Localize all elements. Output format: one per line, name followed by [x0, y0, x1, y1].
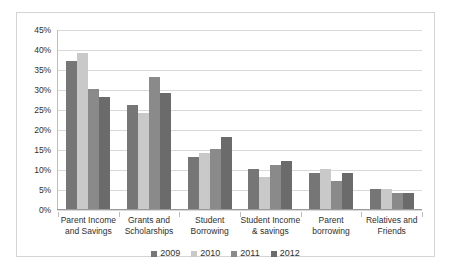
- legend-item[interactable]: 2012: [271, 249, 300, 258]
- x-axis-category-label: Relatives andFriends: [361, 212, 422, 246]
- bar[interactable]: [403, 193, 414, 209]
- bar-group: [179, 30, 240, 209]
- x-axis-category-label-line: Parent Income: [58, 215, 119, 226]
- x-axis-tick: [179, 212, 180, 217]
- x-axis-tick: [301, 212, 302, 217]
- y-axis-tick-label: 10%: [23, 166, 51, 175]
- x-axis-tick: [240, 212, 241, 217]
- legend-swatch-icon: [271, 251, 277, 257]
- bar[interactable]: [370, 189, 381, 209]
- bar-group: [361, 30, 422, 209]
- legend-item[interactable]: 2011: [231, 249, 259, 258]
- bar[interactable]: [331, 181, 342, 209]
- bar-group: [119, 30, 180, 209]
- x-axis-tick: [119, 212, 120, 217]
- x-axis-category-label-line: Student Income: [240, 215, 301, 226]
- y-axis-tick-label: 40%: [23, 46, 51, 55]
- x-axis-line: [57, 209, 422, 210]
- bar[interactable]: [188, 157, 199, 209]
- bar[interactable]: [127, 105, 138, 209]
- bar[interactable]: [270, 165, 281, 209]
- x-axis-category-label: Student Income& savings: [240, 212, 301, 246]
- x-axis-category-label-line: & savings: [240, 226, 301, 237]
- x-axis-category-label: Grants andScholarships: [119, 212, 180, 246]
- bar[interactable]: [149, 77, 160, 209]
- legend-label: 2010: [200, 249, 220, 258]
- chart-container: 45%40%35%30%25%20%15%10%5%0% Parent Inco…: [16, 12, 435, 257]
- bar[interactable]: [199, 153, 210, 209]
- bar[interactable]: [160, 93, 171, 209]
- x-axis-category-label-line: Grants and: [119, 215, 180, 226]
- y-axis-tick-label: 0%: [23, 206, 51, 215]
- x-axis-tick: [361, 212, 362, 217]
- bar[interactable]: [342, 173, 353, 209]
- x-axis-category-label-line: Parent: [301, 215, 362, 226]
- y-axis-tick-label: 30%: [23, 86, 51, 95]
- bar[interactable]: [138, 113, 149, 209]
- legend-swatch-icon: [231, 251, 237, 257]
- y-axis-tick-label: 20%: [23, 126, 51, 135]
- y-axis-tick-label: 15%: [23, 146, 51, 155]
- x-axis-category-label-line: Relatives and: [361, 215, 422, 226]
- bar-group: [58, 30, 119, 209]
- x-axis-category-label-line: Scholarships: [119, 226, 180, 237]
- bar[interactable]: [259, 177, 270, 209]
- legend-item[interactable]: 2010: [191, 249, 220, 258]
- bar[interactable]: [77, 53, 88, 209]
- legend-item[interactable]: 2009: [151, 249, 180, 258]
- y-axis-tick-label: 5%: [23, 186, 51, 195]
- bar[interactable]: [221, 137, 232, 209]
- bar-groups: [58, 30, 422, 209]
- y-axis-tick-label: 25%: [23, 106, 51, 115]
- legend-label: 2011: [240, 249, 259, 258]
- x-axis-category-label-line: and Savings: [58, 226, 119, 237]
- bar[interactable]: [320, 169, 331, 209]
- chart-legend: 2009201020112012: [17, 249, 434, 258]
- x-axis-category-label-line: Student: [179, 215, 240, 226]
- bar[interactable]: [66, 61, 77, 209]
- bar[interactable]: [210, 149, 221, 209]
- bar-group: [240, 30, 301, 209]
- bar[interactable]: [381, 189, 392, 209]
- x-axis-category-label: StudentBorrowing: [179, 212, 240, 246]
- y-axis-tick-labels: 45%40%35%30%25%20%15%10%5%0%: [23, 30, 51, 210]
- x-axis-category-label-line: Borrowing: [179, 226, 240, 237]
- x-axis-tick: [58, 212, 59, 217]
- bar-group: [301, 30, 362, 209]
- legend-swatch-icon: [191, 251, 197, 257]
- bar[interactable]: [99, 97, 110, 209]
- bar[interactable]: [392, 193, 403, 209]
- y-axis-tick-label: 45%: [23, 26, 51, 35]
- bar[interactable]: [88, 89, 99, 209]
- legend-swatch-icon: [151, 251, 157, 257]
- legend-label: 2012: [280, 249, 300, 258]
- legend-label: 2009: [160, 249, 180, 258]
- x-axis-category-label: Parent Incomeand Savings: [58, 212, 119, 246]
- bar[interactable]: [309, 173, 320, 209]
- x-axis-tick: [422, 212, 423, 217]
- x-axis-category-labels: Parent Incomeand SavingsGrants andSchola…: [58, 212, 422, 246]
- bar[interactable]: [248, 169, 259, 209]
- x-axis-category-label-line: Friends: [361, 226, 422, 237]
- chart-plot-area: [57, 30, 422, 210]
- x-axis-category-label: Parentborrowing: [301, 212, 362, 246]
- y-axis-tick-label: 35%: [23, 66, 51, 75]
- gridline: [57, 210, 422, 211]
- chart-plot-wrapper: 45%40%35%30%25%20%15%10%5%0% Parent Inco…: [17, 13, 434, 256]
- x-axis-category-label-line: borrowing: [301, 226, 362, 237]
- bar[interactable]: [281, 161, 292, 209]
